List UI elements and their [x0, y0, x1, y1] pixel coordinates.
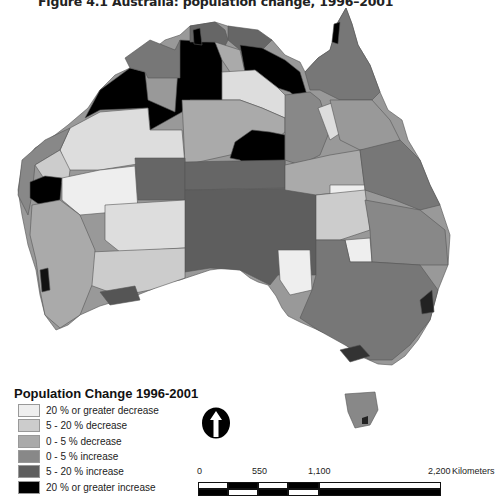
- scale-bar: 0 550 1,100 2,200 Kilometers: [196, 466, 496, 496]
- scale-bar-graphic: [198, 482, 444, 496]
- legend-item: 20 % or greater increase: [14, 479, 198, 494]
- scale-unit: Kilometers: [452, 466, 495, 476]
- legend-item: 5 - 20 % decrease: [14, 418, 198, 433]
- legend-swatch: [18, 404, 40, 417]
- scale-tick-label: 0: [197, 466, 202, 476]
- legend-item: 5 - 20 % increase: [14, 464, 198, 479]
- legend-swatch: [18, 435, 40, 448]
- scale-tick-label: 2,200: [428, 466, 451, 476]
- region-wa-great-southern: [90, 248, 185, 296]
- legend-swatch: [18, 481, 40, 494]
- legend-label: 20 % or greater decrease: [46, 405, 159, 416]
- region-goldfields-grey: [135, 158, 185, 200]
- legend-item: 20 % or greater decrease: [14, 403, 198, 418]
- legend-swatch: [18, 450, 40, 463]
- legend-swatch: [18, 419, 40, 432]
- north-arrow-icon: [200, 407, 232, 439]
- scale-tick-label: 550: [252, 466, 267, 476]
- region-nt-south: [185, 160, 285, 190]
- legend-label: 5 - 20 % increase: [46, 466, 124, 477]
- legend-item: 0 - 5 % increase: [14, 449, 198, 464]
- legend-title: Population Change 1996-2001: [14, 386, 198, 401]
- region-wa-south-light: [105, 200, 185, 252]
- legend-label: 0 - 5 % increase: [46, 451, 118, 462]
- scale-tick-label: 1,100: [308, 466, 331, 476]
- region-nsw-west: [316, 190, 370, 240]
- map-legend: Population Change 1996-2001 20 % or grea…: [14, 386, 198, 495]
- region-tasmania: [345, 392, 378, 428]
- legend-label: 20 % or greater increase: [46, 482, 156, 493]
- region-perth: [40, 268, 50, 292]
- legend-item: 0 - 5 % decrease: [14, 434, 198, 449]
- legend-label: 0 - 5 % decrease: [46, 436, 122, 447]
- region-cape-york: [305, 8, 380, 100]
- legend-swatch: [18, 465, 40, 478]
- legend-label: 5 - 20 % decrease: [46, 420, 127, 431]
